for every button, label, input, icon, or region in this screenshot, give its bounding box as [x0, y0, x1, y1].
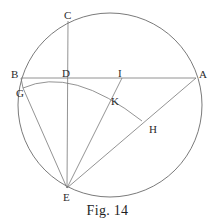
geometry-figure: A B C D E G H I K Fig. 14 — [0, 0, 215, 224]
point-label-A: A — [199, 69, 207, 80]
line-EA — [67, 78, 196, 188]
point-label-C: C — [64, 10, 71, 21]
point-label-K: K — [111, 96, 119, 107]
point-label-E: E — [63, 192, 70, 203]
geometry-canvas — [0, 0, 215, 224]
point-label-B: B — [11, 69, 18, 80]
figure-caption: Fig. 14 — [0, 203, 215, 219]
point-label-H: H — [149, 124, 157, 135]
main-circle — [18, 13, 202, 197]
arc-G-K-H — [23, 82, 142, 121]
point-label-G: G — [16, 88, 24, 99]
line-EG — [23, 88, 67, 188]
line-CE — [67, 21, 68, 188]
point-label-D: D — [62, 68, 70, 79]
point-label-I: I — [118, 68, 122, 79]
